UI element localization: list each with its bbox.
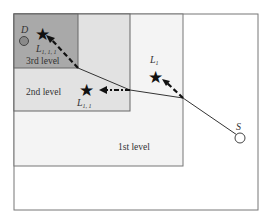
landmark-l111-star-icon: ★ xyxy=(35,25,50,44)
source-label: S xyxy=(236,121,241,132)
destination-node-icon xyxy=(20,37,29,46)
destination-label: D xyxy=(20,24,29,35)
hierarchical-levels-diagram: ★ ★ ★ D S L1 L1, 1 L1, 1, 1 3rd level 2n… xyxy=(0,0,271,218)
source-node-icon xyxy=(235,133,245,143)
landmark-l1-star-icon: ★ xyxy=(148,68,163,87)
level-2-label: 2nd level xyxy=(26,87,61,97)
level-3-label: 3rd level xyxy=(26,56,60,66)
level-1-label: 1st level xyxy=(118,142,150,152)
